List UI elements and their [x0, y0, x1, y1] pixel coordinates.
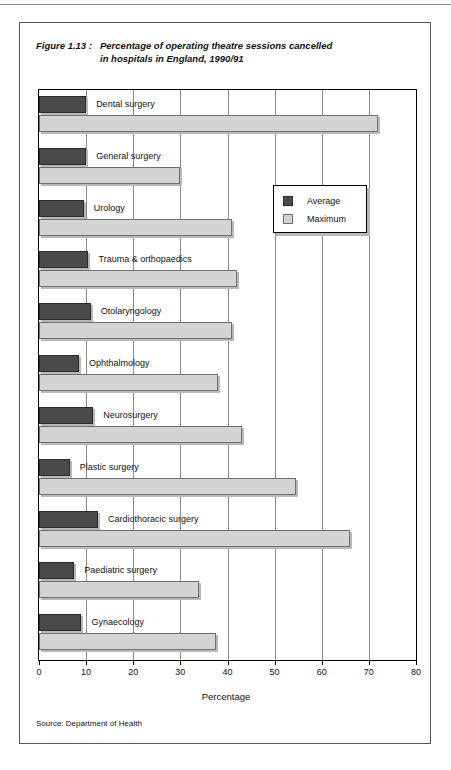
figure-title-line1: Percentage of operating theatre sessions…: [100, 40, 332, 51]
bar-maximum: [39, 167, 180, 184]
x-axis-tick-mark: [39, 660, 40, 665]
bar-category-label: Cardiothoracic surgery: [108, 511, 199, 528]
bar-average: [39, 355, 79, 372]
bar-category-label: Gynaecology: [91, 614, 144, 631]
legend-item-maximum: Maximum: [283, 212, 365, 226]
bar-group: Ophthalmology: [39, 349, 416, 401]
legend-item-average: Average: [283, 194, 365, 208]
legend-label-average: Average: [307, 194, 340, 208]
bar-maximum: [39, 322, 232, 339]
bar-maximum: [39, 633, 216, 650]
x-axis-tick-label: 50: [260, 667, 290, 677]
x-axis-tick-label: 10: [71, 667, 101, 677]
x-axis-tick-label: 60: [307, 667, 337, 677]
bar-average: [39, 96, 86, 113]
x-axis-tick-mark: [228, 660, 229, 665]
bar-average: [39, 614, 81, 631]
x-axis-tick-label: 0: [24, 667, 54, 677]
bar-average: [39, 148, 86, 165]
bar-group: Gynaecology: [39, 608, 416, 660]
figure-title-line2: in hospitals in England, 1990/91: [100, 53, 244, 64]
x-axis-tick-mark: [133, 660, 134, 665]
bar-category-label: Trauma & orthopaedics: [98, 251, 191, 268]
x-axis-tick-label: 40: [213, 667, 243, 677]
bar-average: [39, 200, 84, 217]
figure-container: Figure 1.13 :Percentage of operating the…: [19, 22, 431, 744]
bar-category-label: Ophthalmology: [89, 355, 150, 372]
bar-average: [39, 511, 98, 528]
bar-category-label: Paediatric surgery: [84, 562, 157, 579]
bar-maximum: [39, 374, 218, 391]
legend-swatch-maximum-icon: [283, 214, 293, 224]
bar-category-label: Dental surgery: [96, 96, 155, 113]
bar-group: Otolaryngology: [39, 297, 416, 349]
bar-group: Plastic surgery: [39, 453, 416, 505]
bar-category-label: Plastic surgery: [80, 459, 139, 476]
x-axis-tick-label: 30: [165, 667, 195, 677]
x-axis-tick-label: 80: [401, 667, 431, 677]
bar-maximum: [39, 581, 199, 598]
x-axis-tick-label: 70: [354, 667, 384, 677]
bar-average: [39, 459, 70, 476]
bar-average: [39, 251, 88, 268]
chart-plot-area: Dental surgeryGeneral surgeryUrologyTrau…: [38, 89, 417, 661]
x-axis-tick-mark: [275, 660, 276, 665]
bar-maximum: [39, 426, 242, 443]
bar-group: Trauma & orthopaedics: [39, 245, 416, 297]
figure-caption: Figure 1.13 :Percentage of operating the…: [36, 39, 416, 65]
source-note: Source: Department of Health: [36, 719, 142, 728]
x-axis-tick-mark: [322, 660, 323, 665]
figure-number: Figure 1.13 :: [36, 39, 100, 52]
legend-label-maximum: Maximum: [307, 212, 346, 226]
bar-group: Dental surgery: [39, 90, 416, 142]
x-axis-title: Percentage: [20, 691, 432, 702]
bar-group: Paediatric surgery: [39, 556, 416, 608]
bar-maximum: [39, 530, 350, 547]
bar-category-label: Otolaryngology: [101, 303, 162, 320]
x-axis-tick-mark: [180, 660, 181, 665]
x-axis-tick-mark: [86, 660, 87, 665]
x-axis-tick-mark: [369, 660, 370, 665]
bar-average: [39, 407, 93, 424]
bar-group: Neurosurgery: [39, 401, 416, 453]
bar-average: [39, 562, 74, 579]
x-axis-tick-label: 20: [118, 667, 148, 677]
bar-maximum: [39, 219, 232, 236]
legend-swatch-average-icon: [283, 196, 293, 206]
chart-legend: Average Maximum: [273, 185, 367, 233]
x-axis-tick-mark: [416, 660, 417, 665]
bar-maximum: [39, 115, 378, 132]
bar-maximum: [39, 478, 296, 495]
bar-maximum: [39, 270, 237, 287]
bar-group: Cardiothoracic surgery: [39, 505, 416, 557]
bar-category-label: Neurosurgery: [103, 407, 158, 424]
bar-category-label: Urology: [94, 200, 125, 217]
page-top-rule: [0, 4, 451, 5]
bar-average: [39, 303, 91, 320]
bar-category-label: General surgery: [96, 148, 161, 165]
